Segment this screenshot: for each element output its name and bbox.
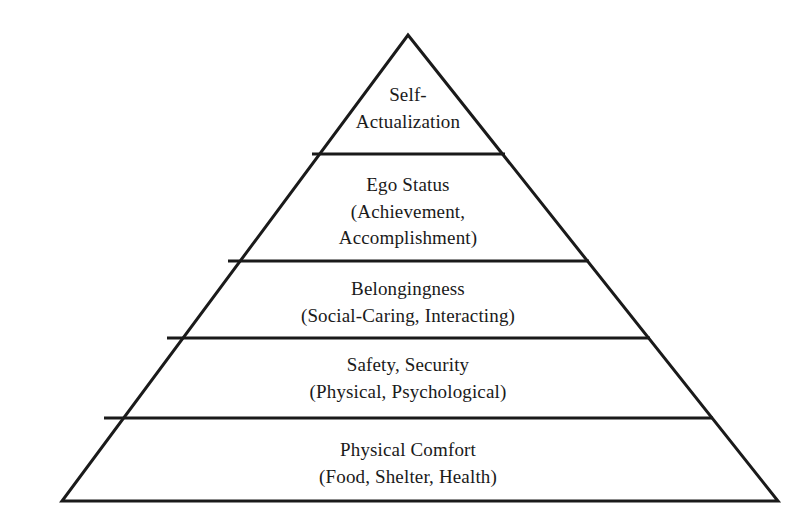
tier-line-1: Safety, Security bbox=[347, 354, 470, 375]
tier-line-2: Actualization bbox=[208, 109, 608, 136]
tier-line-2: (Achievement, bbox=[208, 199, 608, 226]
tier-line-1: Physical Comfort bbox=[340, 439, 476, 460]
tier-label-self-actualization: Self- Actualization bbox=[208, 82, 608, 135]
tier-line-3: Accomplishment) bbox=[208, 225, 608, 252]
tier-line-2: (Food, Shelter, Health) bbox=[208, 464, 608, 491]
tier-label-physical-comfort: Physical Comfort (Food, Shelter, Health) bbox=[208, 437, 608, 490]
tier-label-ego-status: Ego Status (Achievement, Accomplishment) bbox=[208, 172, 608, 252]
tier-label-safety-security: Safety, Security (Physical, Psychologica… bbox=[208, 352, 608, 405]
tier-line-1: Belongingness bbox=[351, 278, 465, 299]
tier-line-2: (Social-Caring, Interacting) bbox=[208, 303, 608, 330]
tier-line-2: (Physical, Psychological) bbox=[208, 379, 608, 406]
tier-line-1: Ego Status bbox=[366, 174, 449, 195]
tier-label-belongingness: Belongingness (Social-Caring, Interactin… bbox=[208, 276, 608, 329]
needs-hierarchy-pyramid: Self- Actualization Ego Status (Achievem… bbox=[0, 0, 810, 525]
tier-line-1: Self- bbox=[389, 84, 427, 105]
